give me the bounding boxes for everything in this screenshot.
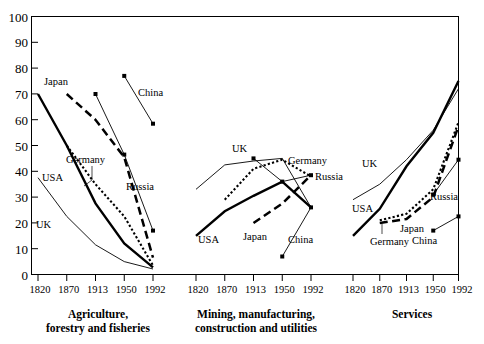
panel3-xtick-1950: 1950 <box>425 284 446 295</box>
y-tick-label-0: 0 <box>22 268 29 283</box>
panel1-xtick-1913: 1913 <box>87 284 108 295</box>
panel2-label-usa: USA <box>198 234 219 245</box>
panel2-marker-russia-1992 <box>309 173 313 177</box>
panel1-marker-russia-1913 <box>94 92 98 96</box>
panel2-marker-china-1950 <box>280 255 284 259</box>
panel1-xtick-1870: 1870 <box>58 284 79 295</box>
panel1-label-uk: UK <box>36 219 52 230</box>
y-tick-label-10: 10 <box>15 242 28 257</box>
panel1-title-line2: forestry and fisheries <box>46 322 150 335</box>
y-tick-label-90: 90 <box>15 35 28 50</box>
panel1-marker-russia-1950 <box>122 153 126 157</box>
panel2-xtick-1950: 1950 <box>274 284 295 295</box>
panel2-label-germany: Germany <box>288 155 328 166</box>
panel3-label-uk: UK <box>362 158 378 169</box>
panel1-label-japan: Japan <box>44 76 69 87</box>
panel2-label-uk: UK <box>232 143 248 154</box>
panel1-marker-russia-1992 <box>151 229 155 233</box>
panel3-label-germany: Germany <box>370 236 410 247</box>
panel2-xtick-1992: 1992 <box>303 284 324 295</box>
panel2-xtick-1870: 1870 <box>216 284 237 295</box>
y-tick-label-80: 80 <box>15 61 28 76</box>
y-tick-label-20: 20 <box>15 216 28 231</box>
panel1-xtick-1950: 1950 <box>116 284 137 295</box>
panel2-title-line2: construction and utilities <box>195 322 318 334</box>
panel2-label-china: China <box>288 234 313 245</box>
panel3-label-russia: Russia <box>430 191 458 202</box>
panel1-title-line1: Agriculture, <box>68 308 128 321</box>
panel3-xtick-1870: 1870 <box>371 284 392 295</box>
panel2-title-line1: Mining, manufacturing, <box>197 308 315 321</box>
y-tick-label-40: 40 <box>15 164 28 179</box>
panel1-marker-china-1992 <box>151 122 155 126</box>
panel1-label-germany: Germany <box>66 154 106 165</box>
panel2-marker-russia-1950 <box>280 180 284 184</box>
panel3-xtick-1820: 1820 <box>345 284 366 295</box>
panel3-marker-russia-1992 <box>457 158 461 162</box>
y-tick-label-50: 50 <box>15 139 28 154</box>
y-tick-label-100: 100 <box>9 10 29 25</box>
panel2-marker-russia-1913 <box>252 156 256 160</box>
panel3-xtick-1992: 1992 <box>452 284 473 295</box>
panel1-label-russia: Russia <box>126 181 154 192</box>
panel3-xtick-1913: 1913 <box>398 284 419 295</box>
y-tick-label-30: 30 <box>15 190 28 205</box>
panel3-label-china: China <box>412 235 437 246</box>
panel1-label-usa: USA <box>42 172 63 183</box>
y-tick-label-70: 70 <box>15 87 28 102</box>
panel3-marker-china-1950 <box>431 229 435 233</box>
panel2-marker-china-1992 <box>309 205 313 209</box>
panel2-xtick-1913: 1913 <box>245 284 266 295</box>
occupational-structure-line-chart: 100 90 80 70 60 50 40 30 20 10 0 1820 18… <box>0 0 484 344</box>
panel3-title-line1: Services <box>392 308 433 320</box>
panel3-label-japan: Japan <box>400 223 425 234</box>
chart-container: 100 90 80 70 60 50 40 30 20 10 0 1820 18… <box>0 0 484 344</box>
panel2-label-russia: Russia <box>315 171 343 182</box>
panel1-label-china: China <box>138 87 163 98</box>
panel1-marker-china-1950 <box>122 74 126 78</box>
panel2-label-japan: Japan <box>243 231 268 242</box>
panel1-xtick-1820: 1820 <box>30 284 51 295</box>
y-tick-label-60: 60 <box>15 113 28 128</box>
panel1-xtick-1992: 1992 <box>145 284 166 295</box>
panel2-xtick-1820: 1820 <box>188 284 209 295</box>
panel3-marker-china-1992 <box>457 214 461 218</box>
panel3-label-usa: USA <box>352 203 373 214</box>
